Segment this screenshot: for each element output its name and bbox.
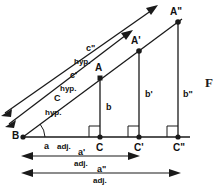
arrowhead-c-prime-left	[1, 109, 12, 117]
label-side-b-double-prime: b"	[183, 89, 193, 99]
vertex-dot-A-prime	[136, 48, 142, 54]
dim-a-prime-arrow-right	[128, 152, 140, 160]
vertex-dot-B	[20, 134, 25, 139]
label-adj-a-prime-unit: adj.	[74, 159, 88, 168]
vertex-dot-C-double-prime	[175, 134, 180, 139]
label-point-C-prime: C'	[134, 142, 144, 153]
dim-a-double-arrow-right	[169, 169, 181, 177]
caption-fragment-f: F	[205, 75, 213, 90]
dim-a-double-arrow-left	[21, 169, 33, 177]
label-point-B: B	[12, 130, 19, 141]
label-adj-a-prime-name: a'	[78, 147, 85, 157]
label-adj-a-name: a	[44, 141, 50, 151]
dim-a-prime-arrow-left	[21, 152, 33, 160]
label-point-A: A	[95, 62, 102, 73]
label-side-b: b	[106, 102, 112, 112]
angle-mark-at-B	[40, 124, 45, 137]
label-point-C: C	[96, 142, 103, 153]
hypotenuse-arrow-c	[5, 30, 133, 128]
label-adj-a-double-unit: adj.	[93, 176, 107, 185]
label-adj-a-double-name: a"	[97, 164, 106, 174]
geometry-figure: B A A' A" C C' C" C hyp. c' hyp. c" hyp.…	[0, 0, 216, 188]
label-point-A-prime: A'	[131, 35, 141, 46]
vertex-dot-C	[97, 134, 102, 139]
label-hyp-c-double-unit: hyp.	[74, 57, 90, 66]
vertex-dot-C-prime	[136, 134, 141, 139]
label-hyp-c-unit: hyp.	[45, 108, 61, 117]
vertex-dot-A	[98, 76, 103, 81]
arrowhead-c-left	[5, 120, 16, 128]
opposite-side-labels: b b' b"	[106, 89, 193, 112]
angle-arc-theta	[40, 124, 45, 137]
right-angle-marks	[89, 126, 178, 137]
label-side-b-prime: b'	[145, 89, 153, 99]
label-adj-a-unit: adj.	[57, 142, 71, 151]
vertex-dot-A-double-prime	[175, 19, 181, 25]
similar-triangles-diagram: B A A' A" C C' C" C hyp. c' hyp. c" hyp.…	[0, 0, 216, 188]
label-point-A-double-prime: A"	[170, 6, 182, 17]
label-hyp-c-prime-name: c'	[70, 70, 77, 80]
label-point-C-double-prime: C"	[173, 142, 185, 153]
label-hyp-c-prime-unit: hyp.	[60, 84, 76, 93]
label-hyp-c-name: C	[54, 93, 61, 103]
label-hyp-c-double-name: c"	[86, 43, 95, 53]
